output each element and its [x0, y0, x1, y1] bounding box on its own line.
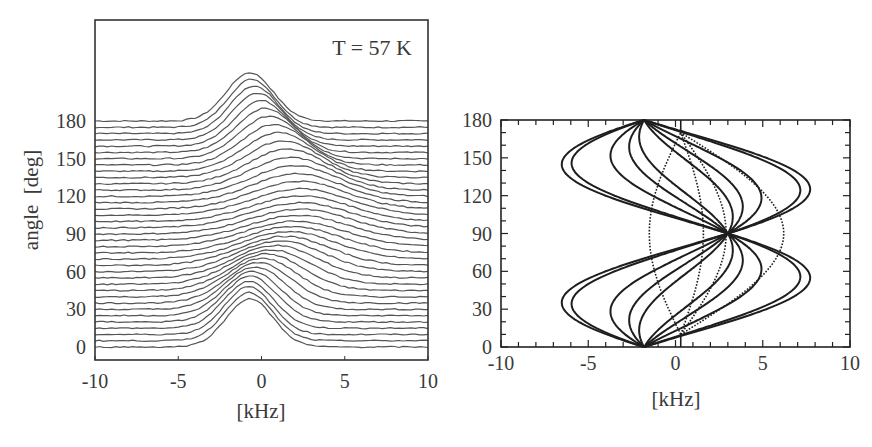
- x-tick-label: -5: [170, 370, 187, 392]
- y-tick-label: 120: [462, 185, 492, 207]
- x-tick-label: 10: [418, 370, 438, 392]
- left-waterfall-chart: -10-50510 0306090120150180 T = 57 K [kHz…: [19, 20, 438, 423]
- y-tick-label: 30: [472, 298, 492, 320]
- y-tick-label: 150: [56, 148, 86, 170]
- left-y-ticks: 0306090120150180: [56, 110, 86, 358]
- left-x-ticks: -10-50510: [82, 356, 438, 392]
- left-y-axis-label: angle [deg]: [19, 150, 43, 250]
- dotted-curve: [681, 133, 726, 335]
- y-tick-label: 180: [462, 109, 492, 131]
- right-x-axis-label: [kHz]: [652, 387, 701, 411]
- solid-curve: [562, 120, 810, 347]
- x-tick-label: 10: [840, 352, 860, 374]
- solid-curve: [611, 120, 762, 347]
- y-tick-label: 120: [56, 185, 86, 207]
- solid-curve: [572, 120, 801, 347]
- x-tick-label: 0: [671, 352, 681, 374]
- figure: -10-50510 0306090120150180 T = 57 K [kHz…: [0, 0, 872, 447]
- frequency-curves: [562, 120, 810, 347]
- dotted-curve: [681, 133, 704, 335]
- x-tick-label: 5: [758, 352, 768, 374]
- y-tick-label: 60: [472, 260, 492, 282]
- y-tick-label: 0: [482, 336, 492, 358]
- y-tick-label: 90: [66, 223, 86, 245]
- spectra-traces: [95, 73, 428, 360]
- y-tick-label: 60: [66, 261, 86, 283]
- solid-curve: [639, 120, 733, 347]
- dotted-curve: [649, 133, 680, 335]
- right-plot-frame: [501, 120, 850, 347]
- right-angular-chart: -10-50510 0306090120150180 [kHz]: [462, 109, 860, 411]
- x-tick-label: -5: [580, 352, 597, 374]
- solid-curve: [562, 120, 810, 347]
- y-tick-label: 150: [462, 147, 492, 169]
- temperature-annotation: T = 57 K: [332, 35, 412, 60]
- solid-curve: [572, 120, 801, 347]
- y-tick-label: 90: [472, 223, 492, 245]
- y-tick-label: 180: [56, 110, 86, 132]
- x-tick-label: 0: [257, 370, 267, 392]
- right-y-ticks: 0306090120150180: [462, 109, 850, 358]
- left-x-axis-label: [kHz]: [237, 399, 286, 423]
- y-tick-label: 0: [76, 336, 86, 358]
- solid-curve: [611, 120, 762, 347]
- y-tick-label: 30: [66, 298, 86, 320]
- x-tick-label: 5: [340, 370, 350, 392]
- x-tick-label: -10: [82, 370, 109, 392]
- solid-curve: [639, 120, 733, 347]
- right-x-ticks: -10-50510: [488, 120, 860, 374]
